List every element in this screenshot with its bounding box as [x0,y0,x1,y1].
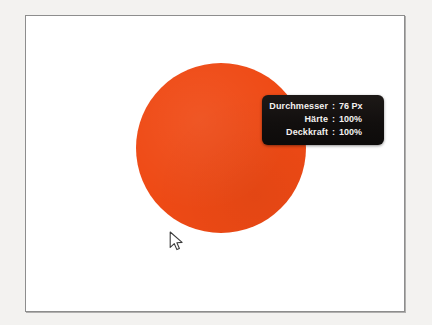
tooltip-value-hardness: 100% [339,113,375,126]
image-canvas[interactable]: Durchmesser : 76 Px Härte : 100% Deckkra… [25,15,405,312]
tooltip-colon-diameter: : [328,100,339,113]
tooltip-label-hardness: Härte [271,113,328,126]
tooltip-row-diameter: Durchmesser : 76 Px [271,100,375,113]
tooltip-colon-opacity: : [328,126,339,139]
brush-stroke [136,63,306,233]
tooltip-value-opacity: 100% [339,126,375,139]
tooltip-label-opacity: Deckkraft [271,126,328,139]
tooltip-value-diameter: 76 Px [339,100,375,113]
brush-info-tooltip: Durchmesser : 76 Px Härte : 100% Deckkra… [262,95,384,145]
tooltip-colon-hardness: : [328,113,339,126]
tooltip-label-diameter: Durchmesser [269,100,328,113]
tooltip-row-opacity: Deckkraft : 100% [271,126,375,139]
mouse-pointer-icon [169,231,185,253]
screenshot-root: Durchmesser : 76 Px Härte : 100% Deckkra… [0,0,432,325]
tooltip-row-hardness: Härte : 100% [271,113,375,126]
